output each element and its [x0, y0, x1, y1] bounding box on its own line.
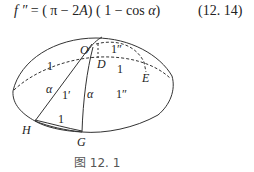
spherical-figure — [0, 0, 254, 172]
label-E: E — [142, 72, 149, 84]
label-one-dprime-top: 1″ — [111, 43, 122, 55]
label-H: H — [22, 124, 31, 136]
label-alpha-right: α — [87, 88, 93, 100]
label-G: G — [77, 136, 86, 148]
label-one-mid: 1 — [117, 63, 123, 75]
figure-caption: 图 12. 1 — [74, 153, 120, 170]
label-one-bottom: 1 — [58, 113, 64, 125]
label-alpha-left: α — [46, 83, 52, 95]
arc-O-top — [88, 37, 102, 51]
label-one-dprime-right: 1″ — [116, 88, 127, 100]
label-one-prime: 1′ — [62, 89, 71, 101]
label-one-left: 1 — [47, 60, 53, 72]
label-D: D — [97, 58, 106, 70]
label-O: O — [80, 44, 89, 56]
